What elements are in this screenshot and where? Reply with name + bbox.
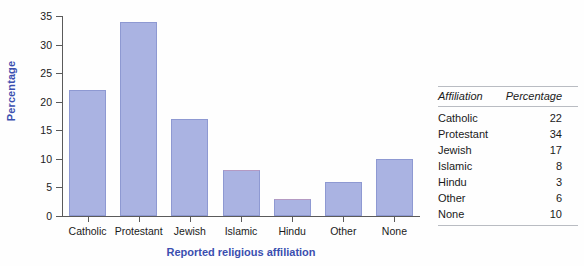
x-tick-mark	[139, 217, 140, 222]
bar-hindu	[274, 199, 311, 216]
table-row: Jewish17	[438, 143, 578, 159]
x-tick-mark	[343, 217, 344, 222]
y-tick-mark	[56, 16, 62, 17]
table-cell-percentage: 6	[495, 191, 578, 207]
table-header-percentage: Percentage	[495, 87, 578, 107]
y-tick-label: 0	[12, 210, 52, 222]
x-tick-label-hindu: Hindu	[278, 225, 305, 237]
x-tick-label-jewish: Jewish	[174, 225, 206, 237]
y-tick-label: 10	[12, 153, 52, 165]
y-tick-label: 5	[12, 181, 52, 193]
figure: Percentage 05101520253035 CatholicProtes…	[0, 0, 584, 266]
x-tick-mark	[88, 217, 89, 222]
x-tick-label-islamic: Islamic	[225, 225, 258, 237]
y-tick-label: 25	[12, 67, 52, 79]
y-tick-mark	[56, 187, 62, 188]
table-cell-percentage: 22	[495, 107, 578, 127]
table-row: Islamic8	[438, 159, 578, 175]
y-tick-mark	[56, 102, 62, 103]
x-tick-label-none: None	[382, 225, 407, 237]
table-cell-percentage: 10	[495, 207, 578, 226]
bar-other	[325, 182, 362, 216]
bar-islamic	[223, 170, 260, 216]
table-cell-percentage: 17	[495, 143, 578, 159]
table-cell-affiliation: Jewish	[438, 143, 495, 159]
y-tick-mark	[56, 130, 62, 131]
y-tick-mark	[56, 73, 62, 74]
x-tick-mark	[394, 217, 395, 222]
x-tick-mark	[190, 217, 191, 222]
bar-catholic	[69, 90, 106, 216]
y-tick-label: 30	[12, 39, 52, 51]
table-cell-affiliation: Catholic	[438, 107, 495, 127]
table-header-row: Affiliation Percentage	[438, 87, 578, 107]
table-cell-affiliation: Protestant	[438, 127, 495, 143]
table-cell-percentage: 8	[495, 159, 578, 175]
data-table: Affiliation Percentage Catholic22Protest…	[438, 86, 578, 226]
data-table-panel: Affiliation Percentage Catholic22Protest…	[438, 86, 578, 226]
x-tick-label-other: Other	[330, 225, 356, 237]
y-tick-label: 15	[12, 124, 52, 136]
bar-jewish	[171, 119, 208, 216]
table-row: Protestant34	[438, 127, 578, 143]
table-cell-affiliation: Islamic	[438, 159, 495, 175]
bar-none	[376, 159, 413, 216]
x-tick-label-catholic: Catholic	[69, 225, 107, 237]
x-axis-title: Reported religious affiliation	[62, 246, 420, 258]
y-tick-mark	[56, 45, 62, 46]
x-tick-label-protestant: Protestant	[115, 225, 163, 237]
y-axis-line	[62, 16, 63, 217]
table-cell-affiliation: Hindu	[438, 175, 495, 191]
table-row: Hindu3	[438, 175, 578, 191]
bar-protestant	[120, 22, 157, 216]
table-row: None10	[438, 207, 578, 226]
table-body: Catholic22Protestant34Jewish17Islamic8Hi…	[438, 107, 578, 226]
table-row: Catholic22	[438, 107, 578, 127]
y-tick-label: 35	[12, 10, 52, 22]
table-cell-percentage: 34	[495, 127, 578, 143]
table-cell-affiliation: None	[438, 207, 495, 226]
table-cell-affiliation: Other	[438, 191, 495, 207]
y-tick-label: 20	[12, 96, 52, 108]
x-tick-mark	[241, 217, 242, 222]
table-cell-percentage: 3	[495, 175, 578, 191]
y-tick-mark	[56, 216, 62, 217]
table-header-affiliation: Affiliation	[438, 87, 495, 107]
table-row: Other6	[438, 191, 578, 207]
y-tick-mark	[56, 159, 62, 160]
bar-chart: Percentage 05101520253035 CatholicProtes…	[0, 0, 430, 266]
x-tick-mark	[292, 217, 293, 222]
